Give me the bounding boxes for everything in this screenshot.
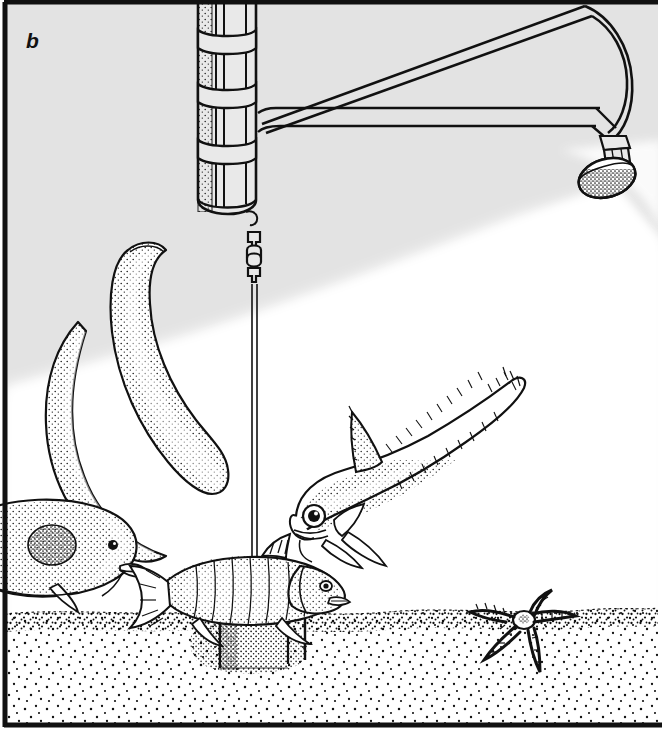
figure-panel-b: b <box>0 0 662 729</box>
panel-label: b <box>26 29 39 52</box>
buoyancy-cylinder <box>198 0 257 225</box>
seafloor-sediment <box>4 608 658 725</box>
swivel-shackle <box>247 232 261 282</box>
